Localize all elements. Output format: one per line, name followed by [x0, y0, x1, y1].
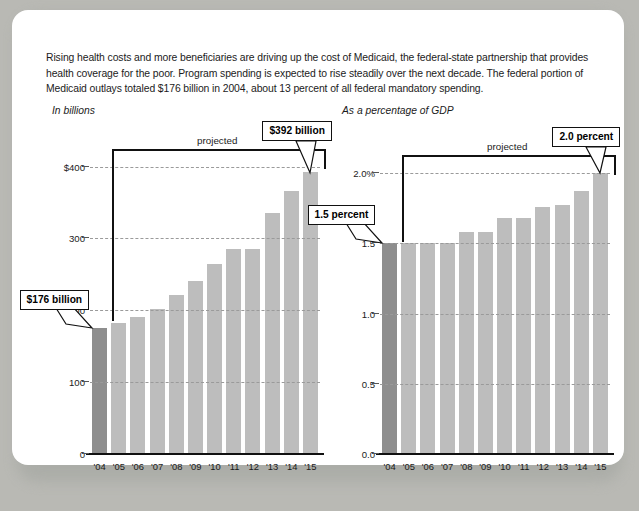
screenshot-root: Rising health costs and more beneficiari… — [0, 0, 639, 511]
y-axis-tick-mark — [82, 381, 89, 382]
chart-title-gdp: As a percentage of GDP — [342, 105, 454, 116]
callout-leader-line-last — [270, 141, 350, 201]
callout-first-year: 1.5 percent — [308, 205, 376, 225]
bar — [169, 295, 184, 454]
x-axis-tick-label: '15 — [588, 461, 612, 472]
figure-card: Rising health costs and more beneficiari… — [12, 10, 624, 465]
chart-panel-gdp: As a percentage of GDP 2.0%1.51.00.50.0'… — [324, 105, 620, 455]
y-axis-tick-label: 300 — [69, 233, 85, 244]
y-axis-tick-label: 0.5 — [362, 378, 375, 389]
projected-label: projected — [482, 141, 532, 152]
y-axis-tick-label: 0.0 — [362, 449, 375, 460]
y-axis-tick-label: 2.0% — [353, 168, 375, 179]
callout-last-year: $392 billion — [262, 121, 331, 141]
y-axis-tick-mark — [372, 172, 379, 173]
bar — [284, 191, 299, 454]
callout-last-year: 2.0 percent — [552, 127, 620, 147]
bar — [207, 264, 222, 454]
gridline — [90, 238, 320, 239]
gridline — [90, 382, 320, 383]
x-axis-tick-label: '15 — [298, 461, 322, 472]
x-axis-gdp — [376, 453, 614, 455]
bar — [265, 213, 280, 454]
y-axis-tick-mark — [82, 453, 89, 454]
figure-inner: Rising health costs and more beneficiari… — [12, 10, 624, 465]
y-axis-tick-mark — [372, 453, 379, 454]
bar — [478, 232, 493, 454]
x-axis-billions — [86, 453, 324, 455]
bar — [401, 243, 416, 454]
bar — [459, 232, 474, 454]
callout-leader-line-last — [560, 147, 639, 207]
bar — [245, 249, 260, 454]
bar — [226, 249, 241, 454]
y-axis-tick-label: 100 — [69, 377, 85, 388]
y-axis-tick-mark — [82, 237, 89, 238]
bar — [382, 243, 397, 454]
callout-first-year: $176 billion — [20, 290, 89, 310]
y-axis-tick-label: 0 — [80, 449, 85, 460]
bar — [420, 243, 435, 454]
y-axis-tick-label: $400 — [64, 161, 85, 172]
bar — [574, 191, 589, 454]
y-axis-tick-mark — [372, 313, 379, 314]
y-axis-tick-label: 1.0 — [362, 308, 375, 319]
gridline — [380, 384, 610, 385]
chart-panel-billions: In billions $4003002001000'04'05'06'07'0… — [34, 105, 330, 455]
y-axis-tick-mark — [372, 383, 379, 384]
gridline — [380, 314, 610, 315]
projected-label: projected — [192, 135, 242, 146]
y-axis-tick-mark — [82, 166, 89, 167]
bar — [440, 243, 455, 454]
bar — [497, 218, 512, 454]
figure-caption: Rising health costs and more beneficiari… — [46, 50, 602, 97]
chart-title-billions: In billions — [52, 105, 95, 116]
bar — [188, 281, 203, 454]
bar — [516, 218, 531, 454]
